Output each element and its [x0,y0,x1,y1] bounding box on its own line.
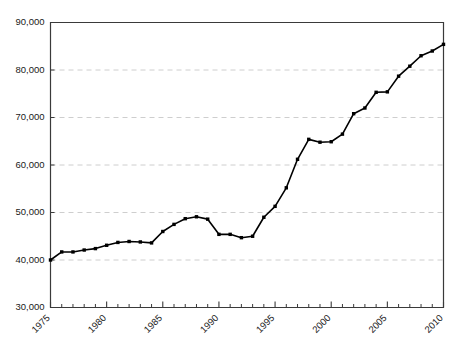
y-tick-label-40000: 40,000 [15,254,44,265]
data-point-1998 [307,138,310,141]
data-point-1996 [285,186,288,189]
data-point-1983 [139,240,142,243]
data-point-1975 [49,258,52,261]
data-point-2000 [330,140,333,143]
data-point-1989 [206,217,209,220]
x-tick-label-1975: 1975 [29,312,52,335]
data-point-1991 [228,233,231,236]
data-point-1977 [71,250,74,253]
data-point-1980 [105,244,108,247]
y-tick-label-80000: 80,000 [15,64,44,75]
data-point-1999 [318,141,321,144]
data-point-1985 [161,230,164,233]
data-point-2007 [408,65,411,68]
data-point-1987 [184,217,187,220]
data-series-group [49,43,445,262]
data-point-1982 [127,240,130,243]
y-tick-label-30000: 30,000 [15,301,44,312]
y-tick-label-70000: 70,000 [15,111,44,122]
data-point-1984 [150,241,153,244]
x-axis-tick-labels: 19751980198519901995200020052010 [29,312,445,335]
x-tick-label-2010: 2010 [422,312,445,335]
data-point-2001 [341,132,344,135]
data-point-1990 [217,233,220,236]
data-point-2009 [431,49,434,52]
x-tick-label-2005: 2005 [366,312,389,335]
x-tick-label-1990: 1990 [198,312,221,335]
data-point-2003 [363,106,366,109]
data-point-1979 [94,247,97,250]
series-line-1 [51,44,444,260]
data-point-2004 [374,91,377,94]
data-point-1976 [60,250,63,253]
chart-canvas: 90,00080,00070,00060,00050,00040,00030,0… [0,0,463,351]
data-point-2006 [397,74,400,77]
y-tick-label-50000: 50,000 [15,206,44,217]
data-point-1978 [82,248,85,251]
data-point-1981 [116,241,119,244]
data-point-1993 [251,235,254,238]
y-tick-label-90000: 90,000 [15,16,44,27]
data-point-2005 [386,90,389,93]
line-chart: 90,00080,00070,00060,00050,00040,00030,0… [0,0,463,351]
x-tick-marks-group [51,302,444,308]
data-point-1992 [240,236,243,239]
data-point-1995 [273,205,276,208]
data-point-2002 [352,112,355,115]
data-point-2010 [442,43,445,46]
data-point-1997 [296,158,299,161]
x-tick-label-1980: 1980 [85,312,108,335]
x-tick-label-1985: 1985 [141,312,164,335]
x-tick-label-2000: 2000 [310,312,333,335]
data-point-2008 [419,54,422,57]
data-point-1994 [262,216,265,219]
data-point-1986 [172,223,175,226]
data-point-1988 [195,215,198,218]
y-axis-tick-labels: 90,00080,00070,00060,00050,00040,00030,0… [15,16,44,312]
y-tick-label-60000: 60,000 [15,159,44,170]
x-tick-label-1995: 1995 [254,312,277,335]
gridlines-group [51,70,444,260]
